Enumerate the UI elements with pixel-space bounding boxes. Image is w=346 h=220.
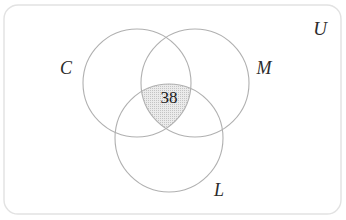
venn-diagram-svg: C M L U 38 xyxy=(0,0,346,220)
set-label-c: C xyxy=(60,58,73,78)
venn-diagram-canvas: C M L U 38 xyxy=(0,0,346,220)
set-label-l: L xyxy=(213,180,224,200)
set-label-m: M xyxy=(256,58,273,78)
universal-set-label: U xyxy=(313,18,328,39)
region-count-all-three: 38 xyxy=(161,88,178,107)
